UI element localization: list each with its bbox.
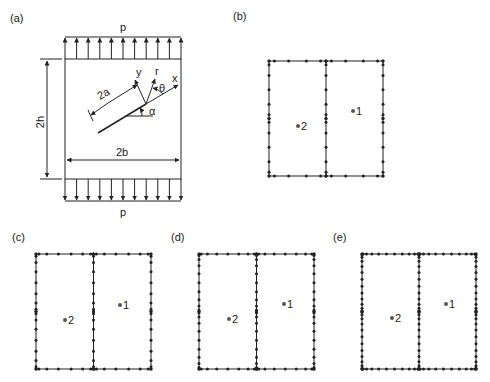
mesh-node bbox=[237, 368, 240, 371]
mesh-node bbox=[35, 318, 38, 321]
mesh-node bbox=[475, 256, 478, 259]
mesh-node bbox=[237, 253, 240, 256]
mesh-node bbox=[150, 292, 153, 295]
mesh-node bbox=[434, 368, 437, 371]
mesh-node bbox=[377, 253, 380, 256]
mesh-node bbox=[215, 368, 218, 371]
mesh-node bbox=[418, 335, 421, 338]
mesh-node bbox=[442, 368, 445, 371]
subregion-2-point bbox=[63, 318, 67, 322]
mesh-node bbox=[268, 146, 271, 149]
mesh-node bbox=[313, 298, 316, 301]
mesh-node bbox=[255, 315, 258, 318]
mesh-node bbox=[450, 253, 453, 256]
mesh-node bbox=[150, 328, 153, 331]
mesh-node bbox=[376, 175, 379, 178]
mesh-node bbox=[408, 253, 411, 256]
mesh-node bbox=[92, 255, 95, 258]
mesh-node bbox=[382, 117, 385, 120]
mesh-node bbox=[313, 330, 316, 333]
mesh-node bbox=[35, 359, 38, 362]
mesh-node bbox=[198, 298, 201, 301]
mesh-node bbox=[418, 313, 421, 316]
bottom-load-label: p bbox=[120, 206, 126, 218]
mesh-node bbox=[255, 258, 258, 261]
mesh-node bbox=[295, 368, 298, 371]
mesh-node bbox=[35, 261, 38, 264]
mesh-node bbox=[475, 329, 478, 332]
mesh-node bbox=[103, 253, 106, 256]
mesh-node bbox=[325, 60, 328, 63]
mesh-node bbox=[114, 253, 117, 256]
mesh-node bbox=[305, 175, 308, 178]
mesh-node bbox=[198, 264, 201, 267]
mesh-node bbox=[475, 342, 478, 345]
mesh-node bbox=[268, 103, 271, 106]
mesh-node bbox=[475, 291, 478, 294]
mesh-node bbox=[247, 253, 250, 256]
mesh-node bbox=[418, 256, 421, 259]
mesh-node bbox=[458, 253, 461, 256]
mesh-node bbox=[422, 253, 425, 256]
subregion-2-point bbox=[296, 124, 300, 128]
mesh-node bbox=[361, 329, 364, 332]
mesh-node bbox=[325, 121, 328, 124]
mesh-node bbox=[255, 298, 258, 301]
panel-e-label: (e) bbox=[333, 231, 346, 243]
panel-d-mesh bbox=[198, 253, 316, 371]
mesh-node bbox=[150, 302, 153, 305]
mesh-node bbox=[37, 368, 40, 371]
mesh-node bbox=[268, 113, 271, 116]
mesh-node bbox=[35, 255, 38, 258]
mesh-node bbox=[361, 355, 364, 358]
mesh-node bbox=[313, 305, 316, 308]
subregion-2-label: 2 bbox=[232, 313, 238, 325]
mesh-node bbox=[247, 368, 250, 371]
mesh-node bbox=[273, 60, 276, 63]
mesh-node bbox=[35, 292, 38, 295]
crack-dim-tick bbox=[88, 110, 93, 121]
mesh-node bbox=[361, 360, 364, 363]
mesh-node bbox=[35, 281, 38, 284]
mesh-node bbox=[35, 312, 38, 315]
subregion-1-label: 1 bbox=[123, 299, 129, 311]
mesh-node bbox=[268, 63, 271, 66]
mesh-node bbox=[92, 328, 95, 331]
mesh-node bbox=[418, 291, 421, 294]
subregion-2-point bbox=[390, 316, 394, 320]
mesh-node bbox=[268, 160, 271, 163]
mesh-node bbox=[362, 60, 365, 63]
mesh-node bbox=[475, 313, 478, 316]
mesh-node bbox=[382, 74, 385, 77]
mesh-node bbox=[377, 368, 380, 371]
mesh-node bbox=[361, 256, 364, 259]
mesh-node bbox=[255, 281, 258, 284]
mesh-node bbox=[325, 74, 328, 77]
mesh-node bbox=[147, 253, 150, 256]
mesh-node bbox=[215, 253, 218, 256]
crack-dim-arrow-left bbox=[91, 103, 108, 115]
mesh-node bbox=[325, 117, 328, 120]
mesh-node bbox=[284, 368, 287, 371]
mesh-node bbox=[418, 285, 421, 288]
mesh-node bbox=[475, 265, 478, 268]
mesh-node bbox=[458, 368, 461, 371]
mesh-node bbox=[89, 253, 92, 256]
mesh-node bbox=[418, 298, 421, 301]
mesh-node bbox=[92, 318, 95, 321]
mesh-node bbox=[198, 330, 201, 333]
mesh-node bbox=[35, 368, 38, 371]
mesh-node bbox=[287, 175, 290, 178]
mesh-node bbox=[150, 368, 153, 371]
mesh-node bbox=[198, 281, 201, 284]
mesh-node bbox=[385, 253, 388, 256]
mesh-node bbox=[313, 290, 316, 293]
mesh-node bbox=[263, 368, 266, 371]
mesh-node bbox=[255, 264, 258, 267]
mesh-node bbox=[268, 175, 271, 178]
mesh-node bbox=[103, 368, 106, 371]
mesh-node bbox=[92, 359, 95, 362]
mesh-node bbox=[114, 368, 117, 371]
top-load-label: p bbox=[120, 21, 126, 33]
subregion-1-point bbox=[118, 303, 122, 307]
